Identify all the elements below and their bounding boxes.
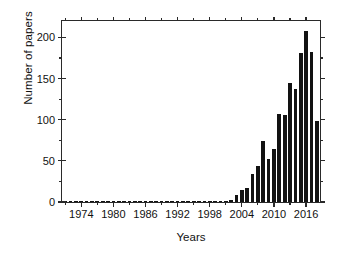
x-axis-minor-tick — [161, 202, 162, 205]
x-axis-tick — [113, 202, 114, 207]
x-axis-tick-top — [241, 17, 242, 22]
x-axis-minor-tick — [193, 202, 194, 205]
bar — [294, 89, 298, 202]
x-axis-tick-top — [209, 17, 210, 22]
bar — [288, 83, 292, 202]
y-axis-tick-inner — [62, 119, 66, 120]
x-axis-minor-tick-top — [161, 18, 162, 21]
x-axis-tick-label: 2016 — [294, 208, 318, 220]
bar — [251, 174, 255, 202]
x-axis-tick-label: 2010 — [262, 208, 286, 220]
y-axis-tick-inner — [62, 78, 66, 79]
bar — [277, 114, 281, 202]
bar — [310, 52, 314, 202]
y-axis-minor-tick — [59, 181, 62, 182]
y-axis-minor-tick-right — [320, 181, 323, 182]
y-axis-minor-tick — [59, 140, 62, 141]
bar — [133, 201, 137, 202]
y-axis-tick-inner — [62, 37, 66, 38]
x-axis-tick — [209, 202, 210, 207]
chart-figure: Number of papers 05010015020019741980198… — [0, 0, 338, 258]
x-axis-title: Years — [61, 231, 321, 243]
y-axis-minor-tick — [59, 57, 62, 58]
y-axis-tick-right — [320, 78, 325, 79]
bar — [203, 201, 207, 202]
bar — [299, 53, 303, 202]
bar — [69, 201, 73, 202]
x-axis-tick-top — [145, 17, 146, 22]
y-axis-tick-right — [320, 119, 325, 120]
y-axis-tick-right — [320, 160, 325, 161]
bar — [122, 201, 126, 202]
bar — [304, 31, 308, 202]
y-axis-title: Number of papers — [22, 0, 34, 128]
plot-area: 0501001502001974198019861992199820042010… — [61, 20, 321, 203]
y-axis-minor-tick-right — [320, 99, 323, 100]
x-axis-minor-tick-top — [257, 18, 258, 21]
x-axis-tick-label: 1986 — [133, 208, 157, 220]
bar — [74, 201, 78, 202]
bar — [219, 201, 223, 202]
x-axis-minor-tick-top — [129, 18, 130, 21]
x-axis-tick — [241, 202, 242, 207]
x-axis-tick-label: 1992 — [165, 208, 189, 220]
x-axis-tick-top — [113, 17, 114, 22]
bar — [267, 159, 271, 202]
y-axis-tick-label: 50 — [43, 155, 55, 167]
x-axis-minor-tick — [129, 202, 130, 205]
y-axis-tick-label: 100 — [37, 114, 55, 126]
x-axis-minor-tick-top — [97, 18, 98, 21]
bar — [235, 195, 239, 202]
bar — [315, 121, 319, 202]
bar — [154, 201, 158, 202]
x-axis-tick — [81, 202, 82, 207]
bar — [181, 201, 185, 202]
x-axis-tick-top — [81, 17, 82, 22]
x-axis-minor-tick — [225, 202, 226, 205]
x-axis-tick-label: 1974 — [69, 208, 93, 220]
x-axis-tick-top — [273, 17, 274, 22]
x-axis-minor-tick-top — [65, 18, 66, 21]
x-axis-tick — [273, 202, 274, 207]
bar — [149, 201, 153, 202]
y-axis-tick-right — [320, 37, 325, 38]
bar — [256, 166, 260, 202]
x-axis-minor-tick-top — [193, 18, 194, 21]
bar — [197, 201, 201, 202]
x-axis-tick-label: 1980 — [101, 208, 125, 220]
bar — [283, 115, 287, 202]
y-axis-tick-label: 0 — [49, 196, 55, 208]
bar — [85, 201, 89, 202]
y-axis-tick-right — [320, 201, 325, 202]
bar — [240, 190, 244, 202]
bar — [101, 201, 105, 202]
x-axis-minor-tick — [257, 202, 258, 205]
y-axis-tick-label: 200 — [37, 31, 55, 43]
y-axis-tick-inner — [62, 160, 66, 161]
y-axis-minor-tick-right — [320, 140, 323, 141]
x-axis-tick — [177, 202, 178, 207]
x-axis-minor-tick-top — [225, 18, 226, 21]
y-axis-minor-tick — [59, 99, 62, 100]
x-axis-minor-tick — [289, 202, 290, 205]
x-axis-minor-tick-top — [289, 18, 290, 21]
bar — [229, 200, 233, 202]
bar — [138, 201, 142, 202]
bar — [272, 149, 276, 202]
bar — [261, 141, 265, 202]
x-axis-tick — [145, 202, 146, 207]
bar — [106, 201, 110, 202]
bar — [245, 188, 249, 202]
bar — [165, 201, 169, 202]
y-axis-minor-tick-right — [320, 57, 323, 58]
bar — [186, 201, 190, 202]
bar — [90, 201, 94, 202]
bar-series — [62, 21, 320, 202]
x-axis-tick-top — [177, 17, 178, 22]
x-axis-tick-label: 1998 — [197, 208, 221, 220]
y-axis-tick-label: 150 — [37, 73, 55, 85]
x-axis-minor-tick — [97, 202, 98, 205]
x-axis-tick-top — [305, 17, 306, 22]
bar — [213, 201, 217, 202]
bar — [170, 201, 174, 202]
